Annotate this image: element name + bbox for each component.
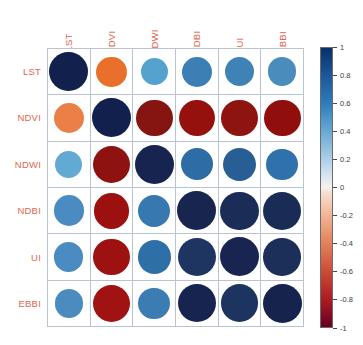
correlation-circle [54,103,84,133]
matrix-cell [133,188,176,234]
row-label-ndvi: NDVI [0,95,41,142]
matrix-cell [48,49,91,95]
colorbar-tick: -1 [333,323,347,333]
colorbar-legend: 10.80.60.40.20-0.2-0.4-0.6-0.8-1 [320,47,363,328]
correlation-circle [179,100,215,136]
correlation-circle [268,57,297,86]
colorbar-gradient [320,47,333,328]
matrix-cell [219,234,262,280]
correlation-circle [178,284,216,322]
colorbar-tick-label: 0.2 [340,155,350,164]
matrix-cell [133,281,176,327]
matrix-cell [261,281,304,327]
correlation-circle [263,238,301,276]
column-label-ui: UI [218,8,261,48]
matrix-cell [261,95,304,141]
colorbar-tick-label: 1 [340,43,344,52]
correlation-circle [225,57,254,86]
colorbar-tick-mark [333,75,337,76]
colorbar-tick-label: -0.4 [340,239,353,248]
colorbar-tick-mark [333,328,337,329]
matrix-cell [219,188,262,234]
matrix-cell [91,49,134,95]
column-labels: LSTNDVINDWINDBIUIEBBI [47,8,304,48]
column-label-text: UI [234,38,245,48]
correlation-circle [138,240,171,273]
colorbar-tick: 0 [333,183,344,193]
matrix-cell [261,142,304,188]
correlation-circle [182,57,212,87]
matrix-cell [219,95,262,141]
colorbar-tick-mark [333,131,337,132]
correlation-circle [135,145,174,184]
colorbar-tick: -0.8 [333,295,353,305]
matrix-cell [133,49,176,95]
column-label-lst: LST [47,8,90,48]
correlation-circle [54,195,84,225]
colorbar-ticks: 10.80.60.40.20-0.2-0.4-0.6-0.8-1 [333,47,363,328]
matrix-cell [176,95,219,141]
colorbar-tick-mark [333,271,337,272]
colorbar-tick-label: -0.8 [340,295,353,304]
colorbar-tick-mark [333,159,337,160]
correlation-circle [263,192,301,230]
correlation-circle [93,285,130,322]
matrix-cell [176,142,219,188]
matrix-cell [91,142,134,188]
colorbar-tick: -0.4 [333,239,353,249]
correlation-circle [177,191,216,230]
matrix-cell [48,95,91,141]
matrix-cell [48,281,91,327]
matrix-cell [91,188,134,234]
colorbar-tick-label: 0.8 [340,71,350,80]
column-label-ndvi: NDVI [90,8,133,48]
colorbar-tick-mark [333,103,337,104]
matrix-cell [219,49,262,95]
correlation-circle [96,57,126,87]
correlation-circle [92,98,131,137]
correlation-circle [94,193,130,229]
matrix-cell [219,281,262,327]
colorbar-tick-label: 0 [340,183,344,192]
correlation-circle [220,192,258,230]
correlation-circle [138,288,169,319]
correlation-circle [93,146,130,183]
matrix-cell [48,142,91,188]
row-label-ndwi: NDWI [0,141,41,188]
matrix-cell [219,142,262,188]
matrix-cell [133,95,176,141]
colorbar-tick-mark [333,187,337,188]
colorbar-tick-mark [333,299,337,300]
row-label-lst: LST [0,48,41,95]
matrix-cell [261,49,304,95]
matrix-cell [48,234,91,280]
correlation-circle [181,148,213,180]
colorbar-tick: 1 [333,42,344,52]
colorbar-tick-label: 0.4 [340,127,350,136]
colorbar-tick-label: -0.2 [340,211,353,220]
row-label-ndbi: NDBI [0,188,41,235]
matrix-cell [91,234,134,280]
matrix-cell [176,234,219,280]
correlation-circle [223,148,256,181]
row-label-ui: UI [0,234,41,281]
correlation-matrix-plot: LSTNDVINDWINDBIUIEBBI LSTNDVINDWINDBIUIE… [0,0,363,345]
correlation-circle [263,284,302,323]
correlation-circle [266,149,297,180]
correlation-circle [55,151,82,178]
colorbar-tick-mark [333,243,337,244]
correlation-circle [54,242,83,271]
colorbar-tick-mark [333,47,337,48]
row-label-ebbi: EBBI [0,281,41,328]
correlation-circle [141,58,168,85]
column-label-ndbi: NDBI [176,8,219,48]
colorbar-tick: 0.6 [333,98,350,108]
correlation-circle [178,238,216,276]
matrix-cell [261,234,304,280]
correlation-circle [136,100,173,137]
matrix-cell [133,234,176,280]
correlation-circle [220,237,259,276]
matrix-cell [91,95,134,141]
column-label-ebbi: EBBI [261,8,304,48]
matrix-cell [176,281,219,327]
